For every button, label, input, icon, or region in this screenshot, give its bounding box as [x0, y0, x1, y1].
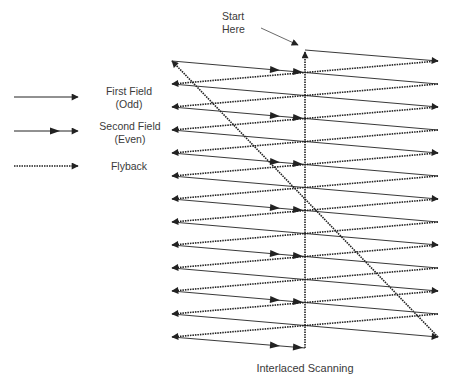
diagram-title: Interlaced Scanning: [230, 362, 380, 375]
legend-second-field-line2: (Even): [90, 133, 170, 146]
second-field-direction-arrowhead: [293, 344, 304, 352]
legend-second-field-line1: Second Field: [90, 120, 170, 133]
second-field-direction-arrowhead: [270, 296, 281, 304]
legend-second-field-mid-arrowhead: [50, 128, 60, 135]
second-field-direction-arrowhead: [270, 158, 281, 166]
second-field-scan-line: [172, 337, 305, 348]
legend-first-field-line1: First Field: [92, 85, 166, 98]
legend-graphics: [14, 97, 78, 166]
start-here-pointer: [261, 28, 298, 45]
second-field-direction-arrowhead: [293, 252, 304, 260]
second-field-direction-arrowhead: [270, 204, 281, 212]
second-field-direction-arrowhead: [270, 342, 281, 350]
first-field-scan-line: [305, 50, 438, 61]
second-field-direction-arrowhead: [270, 66, 281, 74]
start-label-line1: Start: [222, 10, 245, 23]
second-field-direction-arrowhead: [270, 112, 281, 120]
second-field-direction-arrowhead: [293, 298, 304, 306]
second-field-direction-arrowhead: [270, 250, 281, 258]
start-label-line2: Here: [222, 23, 245, 36]
legend-flyback-label: Flyback: [92, 160, 166, 173]
second-field-direction-arrowhead: [293, 114, 304, 122]
legend-second-field-label: Second Field (Even): [90, 120, 170, 146]
start-here-label: Start Here: [222, 10, 245, 36]
scan-lines: [172, 50, 438, 351]
legend-flyback-line1: Flyback: [92, 160, 166, 173]
legend-first-field-label: First Field (Odd): [92, 85, 166, 111]
legend-first-field-line2: (Odd): [92, 98, 166, 111]
second-field-direction-arrowhead: [293, 206, 304, 214]
second-field-direction-arrowhead: [293, 160, 304, 168]
second-field-direction-arrowhead: [293, 68, 304, 76]
interlaced-scanning-diagram: [0, 0, 454, 384]
